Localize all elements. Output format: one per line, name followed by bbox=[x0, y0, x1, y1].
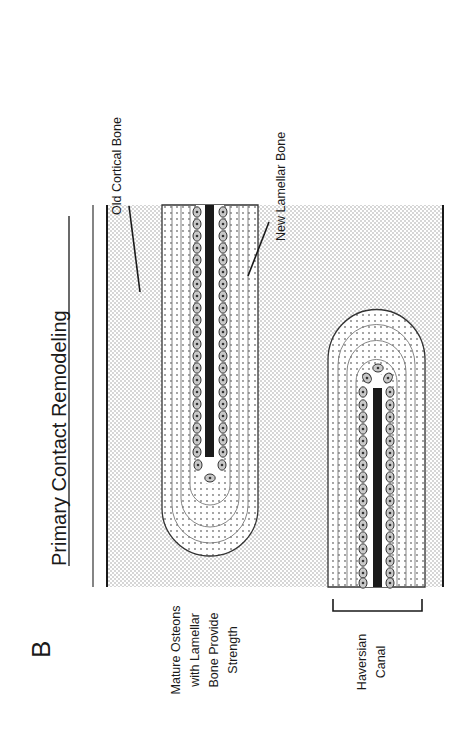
svg-text:Bone Provide: Bone Provide bbox=[207, 612, 221, 687]
osteocyte-column-right bbox=[386, 387, 394, 588]
mature-osteon-lower bbox=[328, 310, 425, 589]
panel-letter: B bbox=[26, 641, 56, 658]
haversian-canal-upper bbox=[205, 205, 214, 457]
svg-text:Mature Osteons: Mature Osteons bbox=[169, 606, 183, 695]
haversian-canal-lower bbox=[373, 388, 382, 587]
haversian-canal-bracket bbox=[333, 599, 422, 611]
svg-text:Haversian: Haversian bbox=[355, 634, 369, 690]
figure-title: Primary Contact Remodeling bbox=[48, 310, 70, 566]
bone-remodeling-diagram: Primary Contact Remodeling B Old Cortica… bbox=[0, 0, 464, 745]
label-haversian-canal: Haversian Canal bbox=[355, 634, 388, 690]
svg-text:Strength: Strength bbox=[226, 626, 240, 673]
mature-osteon-upper bbox=[162, 205, 258, 556]
svg-text:Canal: Canal bbox=[374, 646, 388, 679]
label-old-cortical-bone: Old Cortical Bone bbox=[110, 117, 124, 215]
label-mature-osteons: Mature Osteons with Lamellar Bone Provid… bbox=[169, 606, 240, 695]
label-new-lamellar-bone: New Lamellar Bone bbox=[274, 132, 288, 241]
svg-text:with Lamellar: with Lamellar bbox=[188, 613, 202, 688]
osteocyte-column-left bbox=[359, 387, 367, 588]
